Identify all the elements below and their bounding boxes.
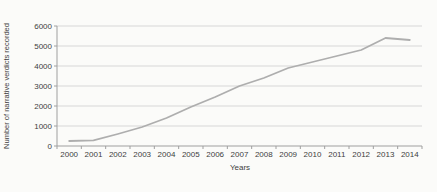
x-tick-label: 2009 bbox=[279, 150, 297, 159]
y-tick-label: 3000 bbox=[34, 82, 52, 91]
x-tick-label: 2013 bbox=[377, 150, 395, 159]
x-tick-label: 2008 bbox=[255, 150, 273, 159]
line-chart: 0100020003000400050006000200020012002200… bbox=[0, 0, 437, 192]
x-tick-label: 2000 bbox=[60, 150, 78, 159]
y-tick-label: 0 bbox=[48, 142, 53, 151]
chart-figure: 0100020003000400050006000200020012002200… bbox=[0, 0, 437, 192]
x-tick-label: 2005 bbox=[182, 150, 200, 159]
x-tick-label: 2012 bbox=[352, 150, 370, 159]
plot-area: 0100020003000400050006000200020012002200… bbox=[34, 22, 422, 160]
x-tick-label: 2002 bbox=[109, 150, 127, 159]
y-tick-label: 2000 bbox=[34, 102, 52, 111]
y-tick-label: 4000 bbox=[34, 62, 52, 71]
y-axis-label: Number of narrative verdicts recorded bbox=[2, 23, 11, 149]
x-tick-label: 2007 bbox=[231, 150, 249, 159]
x-tick-label: 2014 bbox=[401, 150, 419, 159]
x-tick-label: 2003 bbox=[133, 150, 151, 159]
data-line bbox=[69, 38, 410, 141]
x-tick-label: 2001 bbox=[85, 150, 103, 159]
x-axis-label: Years bbox=[230, 163, 250, 172]
x-tick-label: 2011 bbox=[328, 150, 346, 159]
y-tick-label: 5000 bbox=[34, 42, 52, 51]
x-tick-label: 2004 bbox=[158, 150, 176, 159]
y-tick-label: 6000 bbox=[34, 22, 52, 31]
x-tick-label: 2006 bbox=[206, 150, 224, 159]
y-tick-label: 1000 bbox=[34, 122, 52, 131]
x-tick-label: 2010 bbox=[304, 150, 322, 159]
